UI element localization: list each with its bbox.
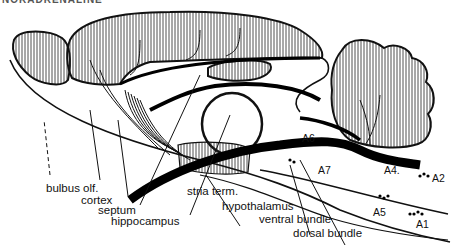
- label-A6: A6: [302, 133, 315, 144]
- label-stria-term: stria term.: [187, 186, 238, 198]
- brain-drawing: [0, 0, 458, 250]
- label-A5: A5: [373, 207, 386, 218]
- label-A2: A2: [432, 173, 445, 184]
- label-bulbus-olf: bulbus olf.: [46, 183, 98, 195]
- olfactory-bulb: [13, 32, 70, 85]
- diagram: NORADRENALINE: [0, 0, 458, 250]
- label-A1: A1: [416, 219, 429, 230]
- cortex: [67, 12, 322, 85]
- label-A4: A4.: [384, 165, 400, 176]
- label-dorsal-bundle: dorsal bundle: [293, 228, 362, 240]
- label-ventral-bundle: ventral bundle: [259, 214, 331, 226]
- label-hippocampus: hippocampus: [111, 216, 179, 228]
- label-A7: A7: [318, 165, 331, 176]
- label-hypothalamus: hypothalamus: [222, 201, 294, 213]
